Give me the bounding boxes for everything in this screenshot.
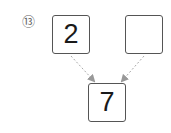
bottom-total-box: 7 (88, 83, 126, 122)
top-right-answer-box[interactable] (125, 15, 163, 54)
arrow-right-to-bottom (122, 56, 144, 81)
top-left-value: 2 (63, 19, 78, 50)
problem-number: ⑬ (22, 15, 35, 29)
arrow-left-to-bottom (71, 56, 94, 81)
bottom-value: 7 (99, 87, 114, 118)
top-left-number-box: 2 (52, 15, 90, 54)
